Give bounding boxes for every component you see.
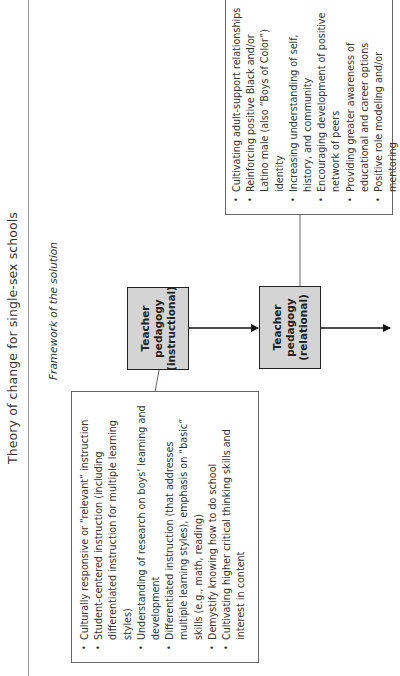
node-label-line: (relational) [297,294,310,361]
list-item: Demystify knowing how to do school [206,400,220,652]
node-label-line: pedagogy [152,286,165,371]
list-item: Encouraging development of positive netw… [315,2,343,204]
node-teacher-pedagogy-relational: Teacher pedagogy (relational) [259,286,321,369]
list-item: Positive role modeling and/or mentoring [372,2,400,204]
list-item: Increasing understanding of self, histor… [287,2,315,204]
list-item: Culturally responsive or “relevant” inst… [78,400,92,652]
relational-strategies-box: Cultivating adult-support relationships … [225,0,393,215]
list-item: Understanding of research on boys’ learn… [135,400,163,652]
list-item: Cultivating higher critical thinking ski… [220,400,248,652]
node-label-line: pedagogy [284,294,297,361]
instructional-connector [155,370,159,392]
list-item: Cultivating adult-support relationships [230,2,244,204]
instructional-strategies-box: Culturally responsive or “relevant” inst… [71,391,259,663]
node-teacher-pedagogy-instructional: Teacher pedagogy (instructional) [127,287,189,370]
node-label-line: (instructional) [165,286,178,371]
list-item: Reinforcing positive Black and/or Latino… [244,2,287,204]
node-label-line: Teacher [139,286,152,371]
list-item: Student-centered instruction (including … [92,400,135,652]
list-item: Differentiated instruction (that address… [163,400,206,652]
node-label-line: Teacher [271,294,284,361]
list-item: Providing greater awareness of education… [344,2,372,204]
